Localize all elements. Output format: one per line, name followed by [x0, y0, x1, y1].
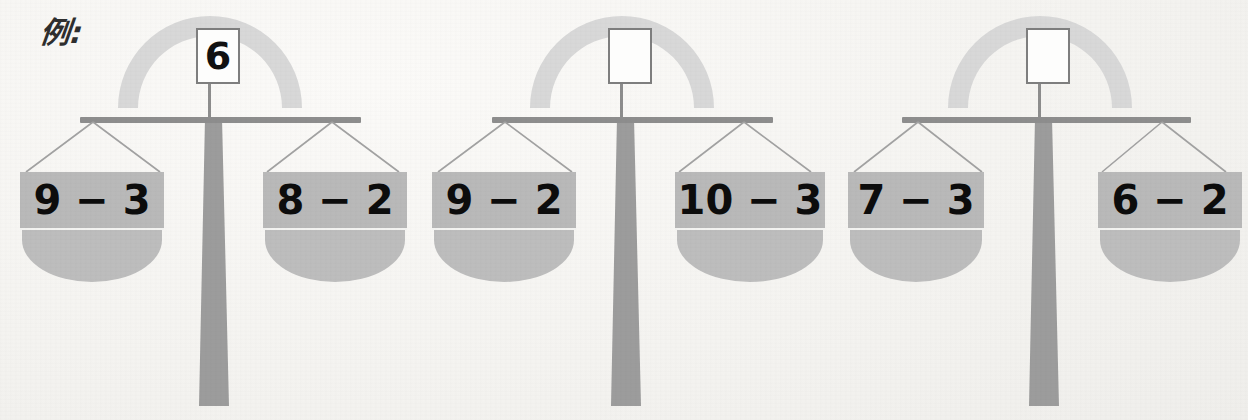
expression-right-3: 6 − 2 — [1098, 172, 1242, 228]
scale-beam-1 — [80, 117, 361, 123]
expression-left-3: 7 − 3 — [848, 172, 984, 228]
balance-scale-2: 9 − 2 10 − 3 — [412, 0, 828, 420]
scale-stand-1 — [199, 118, 229, 406]
hanger-right-2 — [679, 122, 811, 172]
scale-stand-3 — [1029, 118, 1059, 406]
balance-scale-3: 7 − 3 6 − 2 — [830, 0, 1246, 420]
hanger-left-3 — [854, 122, 982, 172]
hanger-left-1 — [26, 122, 160, 172]
expression-right-1: 8 − 2 — [263, 172, 407, 228]
expression-right-2: 10 − 3 — [675, 172, 825, 228]
hanger-left-2 — [438, 122, 572, 172]
expression-left-1: 9 − 3 — [20, 172, 164, 228]
scale-stand-2 — [611, 118, 641, 406]
scale-beam-2 — [492, 117, 773, 123]
scale-beam-3 — [902, 117, 1191, 123]
worksheet-page: 例: — [0, 0, 1248, 420]
hanger-right-3 — [1102, 122, 1226, 172]
expression-left-2: 9 − 2 — [432, 172, 576, 228]
answer-box-2[interactable] — [608, 28, 652, 84]
hanger-right-1 — [267, 122, 399, 172]
answer-box-1[interactable]: 6 — [196, 28, 240, 84]
answer-box-3[interactable] — [1026, 28, 1070, 84]
answer-value-1: 6 — [205, 37, 231, 75]
balance-scale-1: 6 9 − 3 8 − 2 — [0, 0, 416, 420]
